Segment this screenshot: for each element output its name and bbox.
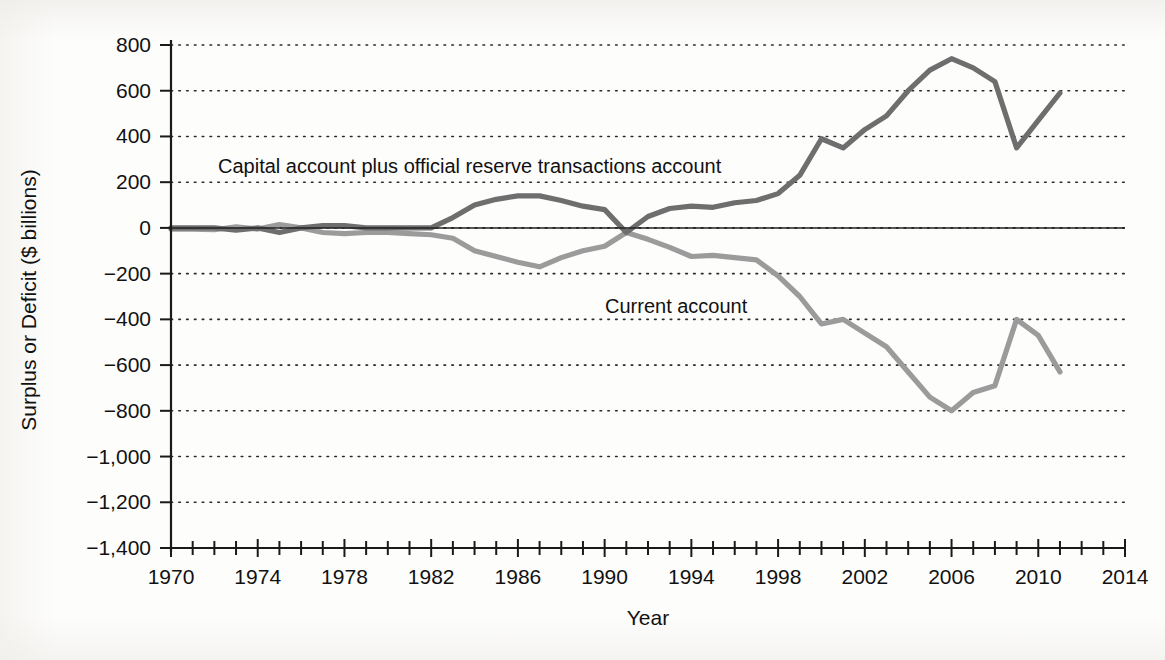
x-tick-label: 1994: [668, 565, 715, 588]
x-tick-label: 2006: [928, 565, 975, 588]
y-axis-ticks: 8006004002000−200−400−600−800−1,000−1,20…: [86, 33, 171, 559]
y-tick-label: 0: [139, 216, 151, 239]
y-tick-label: 400: [116, 124, 151, 147]
y-axis: 8006004002000−200−400−600−800−1,000−1,20…: [86, 33, 171, 559]
x-axis: 1970197419781982198619901994199820022006…: [148, 539, 1149, 588]
y-tick-label: −800: [104, 399, 151, 422]
current-account-line: [171, 224, 1060, 410]
x-axis-ticks: 1970197419781982198619901994199820022006…: [148, 539, 1149, 588]
x-tick-label: 1998: [755, 565, 802, 588]
y-axis-title: Surplus or Deficit ($ billions): [17, 169, 40, 430]
balance-of-payments-line-chart: 8006004002000−200−400−600−800−1,000−1,20…: [0, 0, 1165, 660]
x-tick-label: 2014: [1102, 565, 1149, 588]
y-tick-label: −1,200: [86, 490, 151, 513]
x-tick-label: 1986: [495, 565, 542, 588]
y-tick-label: 200: [116, 170, 151, 193]
capital-account-series-label: Capital account plus official reserve tr…: [218, 155, 722, 177]
y-tick-label: −400: [104, 307, 151, 330]
y-tick-label: −200: [104, 262, 151, 285]
plot-series: [171, 59, 1060, 411]
y-tick-label: −600: [104, 353, 151, 376]
y-tick-label: 800: [116, 33, 151, 56]
capital-account-line: [171, 59, 1060, 233]
y-tick-label: 600: [116, 79, 151, 102]
x-tick-label: 1990: [581, 565, 628, 588]
x-tick-label: 2002: [841, 565, 888, 588]
series-annotations: Capital account plus official reserve tr…: [218, 155, 748, 317]
x-tick-label: 1970: [148, 565, 195, 588]
current-account-series-label: Current account: [605, 295, 748, 317]
x-tick-label: 1982: [408, 565, 455, 588]
y-tick-label: −1,400: [86, 536, 151, 559]
x-tick-label: 1974: [234, 565, 281, 588]
chart-page: 8006004002000−200−400−600−800−1,000−1,20…: [0, 0, 1165, 660]
x-tick-label: 2010: [1015, 565, 1062, 588]
y-tick-label: −1,000: [86, 445, 151, 468]
x-tick-label: 1978: [321, 565, 368, 588]
x-axis-title: Year: [627, 606, 669, 629]
